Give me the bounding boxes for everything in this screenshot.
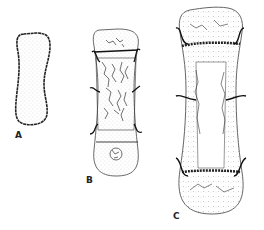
ossification-diagram (0, 0, 264, 230)
label-b: B (86, 175, 93, 185)
label-a: A (15, 130, 22, 140)
panel-b-primary-ossification (90, 29, 142, 176)
panel-a-cartilage-model (16, 33, 50, 125)
label-c: C (173, 211, 180, 221)
panel-c-medullary-cavity (176, 7, 246, 214)
